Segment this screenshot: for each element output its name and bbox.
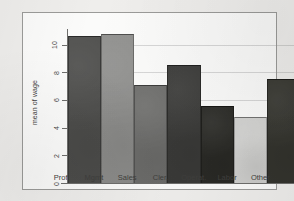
- x-axis-label: Operat.: [177, 174, 210, 182]
- bar: [201, 106, 234, 184]
- bar-slot: [134, 29, 167, 183]
- chart-screenshot: mean of wage 0246810 ProfMgmtSalesCler.O…: [0, 0, 294, 201]
- x-axis-label: Other: [244, 174, 277, 182]
- x-axis-label: Labor: [210, 174, 243, 182]
- y-axis-title-label: mean of wage: [32, 79, 39, 124]
- x-axis-labels: ProfMgmtSalesCler.Operat.LaborOther: [44, 174, 277, 182]
- x-axis-label: Mgmt: [77, 174, 110, 182]
- plot-panel: mean of wage 0246810: [22, 12, 277, 190]
- y-axis-tick: 8: [62, 72, 67, 73]
- y-axis-tick: 2: [62, 155, 67, 156]
- bar: [167, 65, 200, 183]
- bar: [134, 85, 167, 183]
- y-axis-tick-label: 4: [54, 126, 61, 130]
- bar: [267, 79, 294, 183]
- bar-series: [68, 29, 294, 183]
- x-axis-label: Sales: [111, 174, 144, 182]
- y-axis-tick-label: 2: [54, 154, 61, 158]
- y-axis-tick-label: 6: [54, 99, 61, 103]
- bar-slot: [101, 29, 134, 183]
- bar-slot: [201, 29, 234, 183]
- plot-area: 0246810: [67, 29, 294, 184]
- bar: [101, 34, 134, 183]
- y-axis-tick: 0: [62, 183, 67, 184]
- y-axis-title: mean of wage: [29, 13, 41, 191]
- bar-slot: [267, 29, 294, 183]
- x-axis-line: [61, 183, 294, 184]
- y-axis-tick-label: 0: [54, 182, 61, 186]
- bar-slot: [68, 29, 101, 183]
- x-axis-label: Cler.: [144, 174, 177, 182]
- y-axis-tick-label: 10: [52, 41, 59, 49]
- bar: [68, 36, 101, 183]
- y-axis-tick-label: 8: [54, 71, 61, 75]
- bar-slot: [234, 29, 267, 183]
- x-axis-label: Prof: [44, 174, 77, 182]
- y-axis-tick: 10: [62, 45, 67, 46]
- y-axis-tick: 4: [62, 128, 67, 129]
- y-axis-tick: 6: [62, 100, 67, 101]
- bar-slot: [167, 29, 200, 183]
